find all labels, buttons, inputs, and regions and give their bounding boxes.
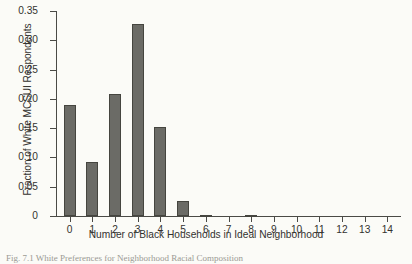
y-axis-tick-label: 0.10 (0, 151, 38, 162)
x-axis-tick (115, 217, 116, 222)
y-axis-tick (50, 11, 56, 12)
y-axis-line (56, 11, 57, 216)
bar (177, 201, 189, 216)
y-axis-tick (50, 40, 56, 41)
x-axis-tick (138, 217, 139, 222)
x-axis-tick (183, 217, 184, 222)
bar (154, 127, 166, 216)
x-axis-tick (92, 217, 93, 222)
y-axis-tick-label: 0.25 (0, 64, 38, 75)
bar (86, 162, 98, 216)
y-axis-tick (50, 99, 56, 100)
x-axis-tick (251, 217, 252, 222)
y-axis-tick-label: 0 (0, 210, 38, 221)
x-axis-tick (206, 217, 207, 222)
y-axis-tick (50, 128, 56, 129)
y-axis-tick-label: 0.15 (0, 122, 38, 133)
y-axis-tick (50, 157, 56, 158)
x-axis-tick (70, 217, 71, 222)
figure-caption: Fig. 7.1 White Preferences for Neighborh… (6, 253, 406, 264)
x-axis-title: Number of Black Households in Ideal Neig… (0, 229, 412, 240)
y-axis-tick-label: 0.20 (0, 93, 38, 104)
x-axis-tick (229, 217, 230, 222)
y-axis-tick (50, 187, 56, 188)
x-axis-tick (297, 217, 298, 222)
figure-container: Fraction of White MCSUI Respondents 00.0… (0, 0, 412, 264)
x-axis-tick (319, 217, 320, 222)
bar (245, 215, 257, 217)
y-axis-tick-label: 0.35 (0, 5, 38, 16)
x-axis-tick (274, 217, 275, 222)
x-axis-tick (387, 217, 388, 222)
bar (64, 105, 76, 216)
x-axis-tick (365, 217, 366, 222)
x-axis-tick (342, 217, 343, 222)
plot-area: 00.050.100.150.200.250.300.35 0123456789… (56, 11, 401, 216)
bar (132, 24, 144, 216)
x-axis-tick (160, 217, 161, 222)
bar (200, 215, 212, 217)
y-axis-tick (50, 216, 56, 217)
y-axis-tick-label: 0.30 (0, 34, 38, 45)
bar (109, 94, 121, 216)
y-axis-tick (50, 70, 56, 71)
y-axis-tick-label: 0.05 (0, 181, 38, 192)
